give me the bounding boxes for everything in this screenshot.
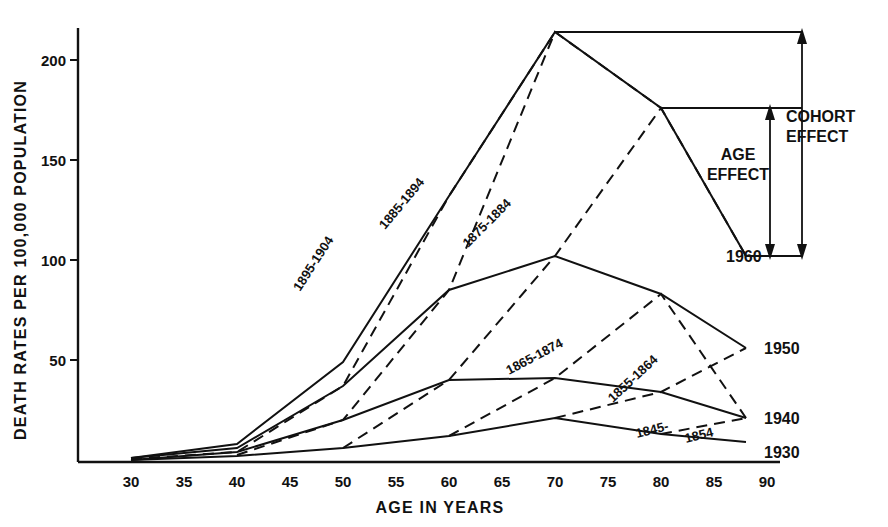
x-tick-label-40: 40 (229, 473, 246, 490)
cohort-effect-label-line2: EFFECT (786, 128, 848, 145)
chart-container: 200 150 100 50 DEATH RATES PER 100,000 P… (0, 0, 888, 527)
cohort-line-1895-1904 (131, 32, 555, 459)
cohort-line-1885-1894 (237, 32, 661, 455)
age-period-cohort-chart: 200 150 100 50 DEATH RATES PER 100,000 P… (0, 0, 888, 527)
x-tick-label-50: 50 (335, 473, 352, 490)
x-tick-label-55: 55 (388, 473, 405, 490)
period-line-1960 (131, 32, 746, 458)
period-label-1940: 1940 (764, 410, 800, 427)
cohort-label-1855-1864: 1855-1864 (605, 351, 661, 405)
x-tick-label-45: 45 (282, 473, 299, 490)
period-label-1950: 1950 (764, 340, 800, 357)
x-tick-label-85: 85 (706, 473, 723, 490)
cohort-label-1854: 1854 (683, 424, 715, 446)
x-tick-label-80: 80 (653, 473, 670, 490)
x-tick-label-60: 60 (441, 473, 458, 490)
period-label-1960: 1960 (726, 248, 762, 265)
y-tick-label-50: 50 (49, 352, 66, 369)
cohort-effect-label-line1: COHORT (786, 108, 856, 125)
x-tick-label-90: 90 (759, 473, 776, 490)
y-tick-label-200: 200 (41, 52, 66, 69)
y-tick-label-100: 100 (41, 252, 66, 269)
x-tick-label-30: 30 (123, 473, 140, 490)
cohort-label-1885-1894: 1885-1894 (376, 174, 428, 232)
x-tick-label-70: 70 (547, 473, 564, 490)
x-tick-label-75: 75 (600, 473, 617, 490)
y-tick-label-150: 150 (41, 152, 66, 169)
cohort-label-1895-1904: 1895-1904 (290, 233, 337, 294)
x-axis-title: AGE IN YEARS (376, 499, 505, 516)
age-effect-label-line1: AGE (721, 146, 756, 163)
cohort-label-1845: 1845- (634, 418, 670, 441)
period-label-1930: 1930 (764, 444, 800, 461)
cohort-label-1865-1874: 1865-1874 (503, 335, 566, 378)
x-tick-label-35: 35 (176, 473, 193, 490)
cohort-label-1875-1884: 1875-1884 (460, 195, 515, 250)
age-effect-label-line2: EFFECT (707, 166, 769, 183)
period-line-1940 (131, 378, 746, 460)
cohort-line-1865-1874 (449, 294, 746, 436)
y-axis-title: DEATH RATES PER 100,000 POPULATION (12, 80, 29, 440)
x-tick-label-65: 65 (494, 473, 511, 490)
